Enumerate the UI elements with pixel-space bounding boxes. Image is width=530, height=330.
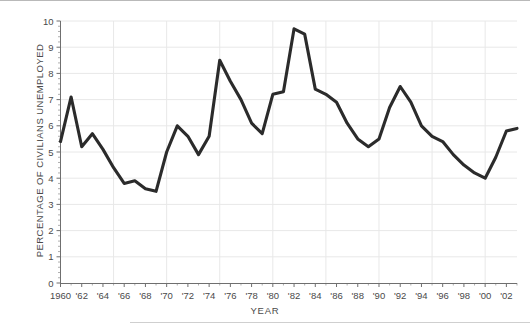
x-tick-label: 1960 xyxy=(50,290,71,301)
x-tick-label: '66 xyxy=(118,290,130,301)
y-tick-label: 5 xyxy=(48,147,53,158)
x-tick-label: '94 xyxy=(415,290,427,301)
x-tick-label: '74 xyxy=(203,290,215,301)
x-tick-label: '62 xyxy=(76,290,88,301)
x-tick-label: '76 xyxy=(224,290,236,301)
y-tick-label: 8 xyxy=(48,68,53,79)
x-tick-label: '96 xyxy=(436,290,448,301)
x-tick-label: '64 xyxy=(97,290,109,301)
x-tick-label: '92 xyxy=(394,290,406,301)
y-tick-label: 10 xyxy=(43,16,54,27)
y-tick-label: 6 xyxy=(48,120,53,131)
y-tick-label: 9 xyxy=(48,42,53,53)
x-tick-label: '90 xyxy=(373,290,385,301)
y-tick-label: 7 xyxy=(48,94,53,105)
unemployment-rate-line xyxy=(61,29,518,191)
y-tick-label: 4 xyxy=(48,173,53,184)
x-tick-label: '70 xyxy=(160,290,172,301)
x-tick-label: '68 xyxy=(139,290,151,301)
chart-plot-area: 0123456789101960'62'64'66'68'70'72'74'76… xyxy=(0,0,530,330)
x-tick-label: '80 xyxy=(267,290,279,301)
x-tick-label: '84 xyxy=(309,290,321,301)
x-tick-label: '82 xyxy=(288,290,300,301)
x-tick-label: '98 xyxy=(458,290,470,301)
y-tick-label: 0 xyxy=(48,278,53,289)
unemployment-chart-figure: 0123456789101960'62'64'66'68'70'72'74'76… xyxy=(0,0,530,330)
x-tick-label: '00 xyxy=(479,290,491,301)
x-tick-label: '88 xyxy=(352,290,364,301)
x-tick-label: '72 xyxy=(182,290,194,301)
x-tick-label: '02 xyxy=(500,290,512,301)
y-tick-label: 2 xyxy=(48,225,53,236)
ticks-group xyxy=(57,21,518,287)
y-axis-label: PERCENTAGE OF CIVILIANS UNEMPLOYED xyxy=(34,16,45,286)
x-tick-label: '78 xyxy=(245,290,257,301)
y-tick-label: 1 xyxy=(48,251,53,262)
x-tick-label: '86 xyxy=(330,290,342,301)
y-tick-label: 3 xyxy=(48,199,53,210)
x-axis-label: YEAR xyxy=(0,305,530,316)
